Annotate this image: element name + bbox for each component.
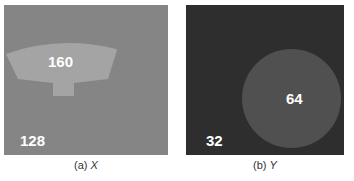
caption-y: (b) Y: [186, 159, 344, 171]
panel-x-image: 160 128: [4, 5, 168, 155]
caption-x: (a) X: [4, 159, 168, 171]
background-value-label: 32: [206, 132, 223, 149]
background-value-label: 128: [20, 132, 45, 149]
shape-value-label: 64: [286, 90, 303, 107]
panel-y-image: 64 32: [186, 5, 344, 155]
shape-value-label: 160: [48, 53, 73, 70]
